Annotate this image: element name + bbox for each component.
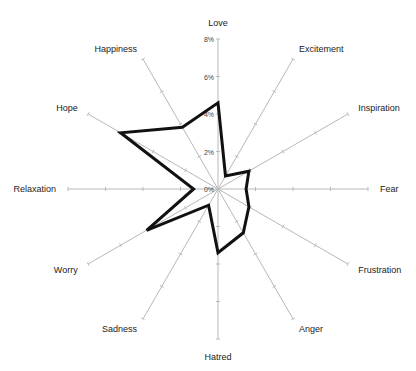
category-label-excitement: Excitement: [299, 44, 344, 54]
data-series: [121, 103, 249, 253]
category-label-anger: Anger: [299, 324, 323, 334]
radar-axes: [68, 39, 368, 339]
radar-chart: 0%2%4%6%8% LoveExcitementInspirationFear…: [0, 0, 416, 371]
tick-label: 0%: [204, 186, 214, 193]
category-label-frustration: Frustration: [358, 265, 401, 275]
tick-label: 2%: [204, 149, 214, 156]
category-label-worry: Worry: [54, 265, 78, 275]
category-label-fear: Fear: [380, 184, 399, 194]
series-polygon: [121, 103, 249, 253]
radial-tick-labels: 0%2%4%6%8%: [204, 36, 214, 193]
category-label-hope: Hope: [56, 103, 78, 113]
category-label-sadness: Sadness: [102, 324, 138, 334]
tick-label: 8%: [204, 36, 214, 43]
category-label-love: Love: [208, 18, 228, 28]
tick-label: 6%: [204, 74, 214, 81]
category-label-inspiration: Inspiration: [358, 103, 400, 113]
category-label-relaxation: Relaxation: [13, 184, 56, 194]
category-label-happiness: Happiness: [94, 44, 137, 54]
category-label-hatred: Hatred: [204, 352, 231, 362]
